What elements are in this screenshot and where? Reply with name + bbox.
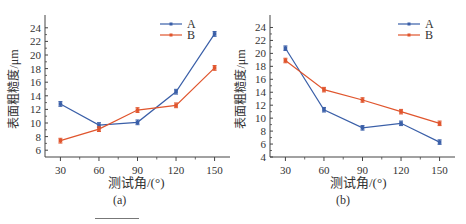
data-point bbox=[174, 104, 178, 108]
y-tick-label: 6 bbox=[36, 144, 42, 156]
y-tick-label: 8 bbox=[36, 131, 42, 143]
series-line-B bbox=[60, 68, 214, 141]
x-axis-title-a: 测试角/(°) bbox=[108, 172, 164, 191]
data-point bbox=[361, 98, 365, 102]
x-axis-title-b: 测试角/(°) bbox=[330, 172, 386, 191]
x-tick-label: 30 bbox=[55, 164, 67, 176]
divider-line bbox=[95, 218, 139, 219]
data-point bbox=[361, 126, 365, 130]
y-axis-title: 表面粗糙度/μm bbox=[6, 49, 21, 129]
y-tick-label: 6 bbox=[261, 138, 267, 150]
data-point bbox=[213, 66, 217, 70]
x-tick-label: 120 bbox=[168, 164, 185, 176]
y-tick-label: 8 bbox=[261, 125, 267, 137]
y-axis-title: 表面粗糙度/μm bbox=[233, 49, 248, 129]
y-tick-label: 20 bbox=[30, 49, 42, 61]
chart-panel-b: 4681012141618202224306090120150表面粗糙度/μmA… bbox=[233, 0, 466, 224]
legend-label-B: B bbox=[187, 28, 195, 42]
data-point bbox=[136, 121, 140, 125]
data-point bbox=[438, 122, 442, 126]
legend-label-B: B bbox=[425, 28, 433, 42]
y-tick-label: 12 bbox=[255, 99, 266, 111]
data-point bbox=[97, 127, 101, 131]
y-tick-label: 4 bbox=[261, 151, 267, 163]
y-tick-label: 18 bbox=[30, 63, 42, 75]
data-point bbox=[322, 88, 326, 92]
y-tick-label: 22 bbox=[255, 34, 266, 46]
y-tick-label: 24 bbox=[30, 22, 42, 34]
y-tick-label: 14 bbox=[255, 86, 267, 98]
y-tick-label: 18 bbox=[255, 60, 267, 72]
y-tick-label: 12 bbox=[30, 103, 41, 115]
data-point bbox=[399, 110, 403, 114]
data-point bbox=[322, 108, 326, 112]
x-tick-label: 120 bbox=[393, 164, 410, 176]
y-tick-label: 24 bbox=[255, 21, 267, 33]
x-tick-label: 150 bbox=[431, 164, 448, 176]
panel-label-a: (a) bbox=[113, 193, 126, 208]
data-point bbox=[213, 32, 217, 36]
y-tick-label: 10 bbox=[255, 112, 267, 124]
data-point bbox=[59, 139, 63, 143]
data-point bbox=[399, 122, 403, 126]
y-tick-label: 20 bbox=[255, 47, 267, 59]
data-point bbox=[438, 140, 442, 144]
y-tick-label: 10 bbox=[30, 117, 42, 129]
panel-label-b: (b) bbox=[336, 193, 350, 208]
y-tick-label: 16 bbox=[30, 76, 42, 88]
y-tick-label: 14 bbox=[30, 90, 42, 102]
chart-panel-a: 681012141618202224306090120150表面粗糙度/μmAB… bbox=[0, 0, 233, 224]
x-tick-label: 30 bbox=[280, 164, 292, 176]
data-point bbox=[59, 102, 63, 106]
series-line-B bbox=[285, 61, 439, 124]
y-tick-label: 22 bbox=[30, 35, 41, 47]
x-tick-label: 60 bbox=[318, 164, 330, 176]
data-point bbox=[136, 108, 140, 112]
data-point bbox=[284, 46, 288, 50]
data-point bbox=[284, 59, 288, 63]
y-tick-label: 16 bbox=[255, 73, 267, 85]
data-point bbox=[174, 90, 178, 94]
x-tick-label: 60 bbox=[93, 164, 105, 176]
x-tick-label: 150 bbox=[206, 164, 223, 176]
